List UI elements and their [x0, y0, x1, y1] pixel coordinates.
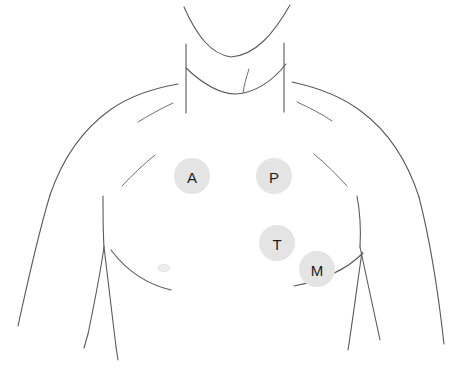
torso-illustration: A P T M	[0, 0, 453, 377]
auscultation-marker-pulmonic[interactable]: P	[256, 158, 292, 194]
mitral-area-label: M	[311, 262, 324, 279]
left-waist-stub	[84, 334, 88, 348]
right-armpit-line	[357, 196, 360, 247]
left-shoulder-outline	[50, 84, 178, 195]
auscultation-marker-tricuspid[interactable]: T	[259, 225, 295, 261]
right-pectoral-crease	[314, 154, 347, 186]
left-flank-line	[104, 247, 116, 347]
sternum-line	[243, 69, 249, 93]
auscultation-marker-mitral[interactable]: M	[299, 251, 335, 287]
left-leg-stub	[116, 347, 118, 360]
left-armpit-line	[103, 196, 104, 247]
right-torso-side	[360, 247, 380, 340]
left-clavicle-line	[138, 103, 173, 122]
right-flank-line	[348, 252, 362, 350]
auscultation-marker-aortic[interactable]: A	[174, 158, 210, 194]
left-pectoral-crease	[122, 155, 155, 186]
suprasternal-notch-outline	[186, 64, 286, 94]
pulmonic-area-label: P	[269, 169, 279, 186]
right-shoulder-outline	[292, 82, 419, 197]
right-clavicle-line	[297, 102, 332, 121]
left-arm-outline	[18, 195, 50, 326]
nipple-mark-left	[158, 265, 170, 272]
jaw-outline	[184, 5, 290, 57]
right-arm-outline	[419, 197, 444, 344]
auscultation-diagram: A P T M	[0, 0, 453, 377]
tricuspid-area-label: T	[272, 236, 281, 253]
aortic-area-label: A	[187, 169, 197, 186]
left-torso-side	[88, 247, 104, 334]
